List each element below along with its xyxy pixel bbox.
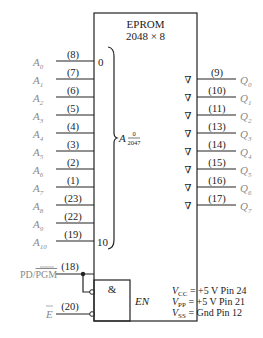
output-signal-label: Q7 xyxy=(240,200,252,215)
chip-title: EPROM xyxy=(127,18,165,30)
tristate-icon: ∇ xyxy=(185,164,192,175)
tristate-icon: ∇ xyxy=(185,92,192,103)
tristate-icon: ∇ xyxy=(185,128,192,139)
address-signal-label: A1 xyxy=(32,74,43,89)
pin-number: (16) xyxy=(208,175,226,187)
address-inputs: (8)A0(7)A1(6)A2(5)A3(4)A4(3)A5(2)A6(1)A7… xyxy=(32,49,94,251)
pin-number: (23) xyxy=(64,193,82,205)
power-notes: VCC = +5 V Pin 24VPP = +5 V Pin 21VSS = … xyxy=(172,285,246,320)
address-signal-label: A5 xyxy=(32,146,44,161)
pin-number: (2) xyxy=(67,157,80,169)
output-signal-label: Q5 xyxy=(240,164,252,179)
pd-pgm-pin: (18) xyxy=(61,261,79,273)
address-signal-label: A2 xyxy=(32,92,44,107)
data-output-row: ∇(17)Q7 xyxy=(185,193,252,215)
pd-pgm-label: PD/PGM xyxy=(20,269,57,280)
tristate-icon: ∇ xyxy=(185,200,192,211)
pin-number: (5) xyxy=(67,103,80,115)
output-signal-label: Q2 xyxy=(240,110,252,125)
address-signal-label: A8 xyxy=(32,200,44,215)
address-signal-label: A7 xyxy=(32,182,44,197)
pin-number: (22) xyxy=(64,211,82,223)
pin-number: (4) xyxy=(67,121,80,133)
tristate-icon: ∇ xyxy=(185,110,192,121)
address-signal-label: A6 xyxy=(32,164,44,179)
pin-number: (6) xyxy=(67,85,80,97)
and-symbol: & xyxy=(108,283,117,295)
pin-number: (9) xyxy=(211,67,224,79)
address-signal-label: A9 xyxy=(32,218,44,233)
pin-number: (14) xyxy=(208,139,226,151)
pin-number: (10) xyxy=(208,85,226,97)
address-start-label: 0 xyxy=(98,56,104,68)
tristate-icon: ∇ xyxy=(185,74,192,85)
pin-number: (19) xyxy=(64,229,82,241)
eprom-diagram: EPROM 2048 × 8 0 10 A 0 2047 (8)A0(7)A1(… xyxy=(0,0,263,338)
data-outputs: ∇(9)Q0∇(10)Q1∇(11)Q2∇(13)Q3∇(14)Q4∇(15)Q… xyxy=(185,67,252,215)
output-signal-label: Q4 xyxy=(240,146,252,161)
output-signal-label: Q1 xyxy=(240,92,251,107)
enable-label: EN xyxy=(134,295,150,307)
address-label: A xyxy=(118,132,126,144)
e-pin: (20) xyxy=(61,301,79,313)
address-signal-label: A3 xyxy=(32,110,44,125)
tristate-icon: ∇ xyxy=(185,182,192,193)
pin-number: (8) xyxy=(67,49,80,61)
pin-number: (7) xyxy=(67,67,80,79)
address-input-row: (8)A0 xyxy=(32,49,94,71)
address-signal-label: A0 xyxy=(32,56,44,71)
tristate-icon: ∇ xyxy=(185,146,192,157)
pin-number: (17) xyxy=(208,193,226,205)
address-den: 2047 xyxy=(128,139,142,146)
pin-number: (13) xyxy=(208,121,226,133)
pin-number: (1) xyxy=(67,175,80,187)
address-end-label: 10 xyxy=(97,236,109,248)
pin-number: (15) xyxy=(208,157,226,169)
chip-body xyxy=(94,13,197,321)
address-signal-label: A10 xyxy=(32,236,47,251)
pin-number: (11) xyxy=(208,103,226,115)
pin-number: (3) xyxy=(67,139,80,151)
output-signal-label: Q3 xyxy=(240,128,252,143)
output-signal-label: Q0 xyxy=(240,74,252,89)
address-signal-label: A4 xyxy=(32,128,44,143)
e-label: E xyxy=(45,308,53,320)
address-num: 0 xyxy=(132,130,135,137)
chip-size: 2048 × 8 xyxy=(126,30,166,42)
address-brace xyxy=(108,47,117,249)
output-signal-label: Q6 xyxy=(240,182,252,197)
pd-pgm-branch xyxy=(83,274,90,292)
